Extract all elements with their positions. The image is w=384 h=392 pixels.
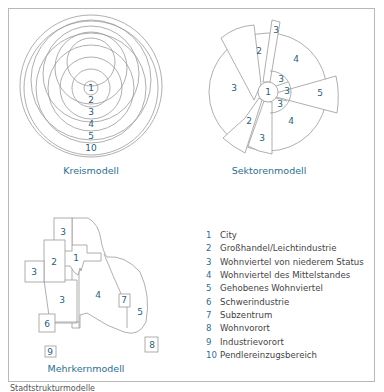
legend-item: 8Wohnvorort: [206, 322, 376, 335]
legend-num: 1: [206, 229, 220, 242]
kreis-label-5: 5: [88, 131, 94, 141]
legend-item: 5Gehobenes Wohnviertel: [206, 282, 376, 295]
mehrkern-label-6: 6: [44, 319, 50, 329]
legend-label: Wohnviertel des Mittelstandes: [220, 269, 350, 282]
legend: 1City 2Großhandel/Leichtindustrie 3Wohnv…: [206, 229, 376, 362]
mehrkern-label-7: 7: [121, 295, 127, 305]
legend-item: 10Pendlereinzugsbereich: [206, 349, 376, 362]
mehrkern-label-1: 1: [73, 253, 79, 263]
sektorenmodell: [209, 20, 338, 154]
sektor-label-3-inner-upper: 3: [278, 74, 284, 84]
legend-item: 7Subzentrum: [206, 309, 376, 322]
legend-num: 2: [206, 242, 220, 255]
mehrkernmodell-title: Mehrkernmodell: [48, 363, 125, 374]
legend-label: Pendlereinzugsbereich: [220, 349, 317, 362]
kreis-label-1: 1: [88, 83, 94, 93]
mehrkern-label-3-middle: 3: [59, 295, 65, 305]
sektor-label-2-upper: 2: [256, 46, 262, 56]
legend-num: 4: [206, 269, 220, 282]
kreismodell-title: Kreismodell: [63, 165, 119, 176]
sektor-label-3-inner-lower: 3: [277, 99, 283, 109]
kreis-label-4: 4: [88, 119, 94, 129]
legend-num: 8: [206, 322, 220, 335]
mehrkern-label-8: 8: [149, 340, 155, 350]
legend-item: 3Wohnviertel von niederem Status: [206, 256, 376, 269]
mehrkern-label-9: 9: [47, 347, 53, 357]
kreis-label-2: 2: [88, 95, 94, 105]
mehrkernmodell: [25, 218, 158, 357]
mehrkern-label-4: 4: [95, 290, 101, 300]
legend-label: Großhandel/Leichtindustrie: [220, 242, 337, 255]
sektorenmodell-title: Sektorenmodell: [232, 165, 307, 176]
legend-num: 6: [206, 296, 220, 309]
ring-3: [55, 32, 127, 104]
legend-num: 7: [206, 309, 220, 322]
mehrkern-label-5: 5: [137, 307, 143, 317]
mehrkern-label-3-left: 3: [31, 267, 37, 277]
kreis-label-10: 10: [85, 143, 97, 153]
kreis-label-3: 3: [88, 107, 94, 117]
legend-label: Industrievorort: [220, 336, 284, 349]
mehrkern-label-3-top: 3: [60, 227, 66, 237]
legend-label: Schwerindustrie: [220, 296, 289, 309]
legend-num: 5: [206, 282, 220, 295]
legend-item: 1City: [206, 229, 376, 242]
legend-label: Subzentrum: [220, 309, 272, 322]
figure-caption: Stadtstrukturmodelle: [10, 384, 95, 392]
legend-label: Gehobenes Wohnviertel: [220, 282, 323, 295]
legend-num: 10: [206, 349, 220, 362]
legend-label: Wohnviertel von niederem Status: [220, 256, 364, 269]
sektor-label-1: 1: [265, 87, 271, 97]
mehrkern-label-2: 2: [51, 257, 57, 267]
legend-label: Wohnvorort: [220, 322, 270, 335]
sektor-label-5: 5: [317, 88, 323, 98]
sektor-label-4-lower: 4: [288, 116, 294, 126]
sektor-label-2-lower: 2: [246, 116, 252, 126]
sektor-label-3-lower: 3: [259, 133, 265, 143]
legend-item: 2Großhandel/Leichtindustrie: [206, 242, 376, 255]
legend-item: 9Industrievorort: [206, 335, 376, 348]
legend-num: 9: [206, 336, 220, 349]
legend-label: City: [220, 229, 237, 242]
sektor-label-3-left: 3: [231, 83, 237, 93]
sektor-label-4-upper: 4: [293, 54, 299, 64]
legend-num: 3: [206, 256, 220, 269]
sektor-label-3-inner-right: 3: [284, 86, 290, 96]
sektor-label-3-top: 3: [273, 25, 279, 35]
legend-item: 6Schwerindustrie: [206, 295, 376, 308]
legend-item: 4Wohnviertel des Mittelstandes: [206, 269, 376, 282]
